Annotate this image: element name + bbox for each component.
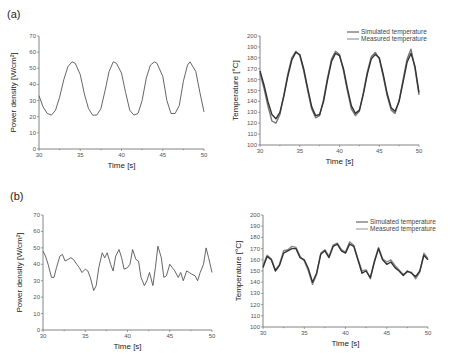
x-tick-label: 50 <box>201 152 208 158</box>
x-tick-label: 45 <box>383 330 390 336</box>
y-tick-label: 140 <box>247 98 258 104</box>
x-tick-label: 50 <box>416 148 423 154</box>
y-tick-label: 160 <box>250 257 261 263</box>
x-axis-label: Time [s] <box>331 339 359 348</box>
x-tick-label: 35 <box>301 330 308 336</box>
y-tick-label: 50 <box>29 65 36 71</box>
x-tick-label: 45 <box>376 148 383 154</box>
series-line-power-density <box>43 246 212 290</box>
y-tick-label: 40 <box>29 81 36 87</box>
y-axis-label: Temperature [°C] <box>234 241 243 302</box>
y-tick-label: 180 <box>250 234 261 240</box>
y-tick-label: 200 <box>250 212 261 218</box>
x-tick-label: 30 <box>36 152 43 158</box>
y-tick-label: 160 <box>247 77 258 83</box>
y-tick-label: 150 <box>250 268 261 274</box>
y-tick-label: 60 <box>33 228 40 234</box>
x-axis-label: Time [s] <box>113 342 141 351</box>
y-tick-label: 70 <box>33 212 40 218</box>
x-axis-label: Time [s] <box>325 157 353 166</box>
legend-entry: Measured temperature <box>370 225 436 233</box>
y-tick-label: 200 <box>247 33 258 39</box>
y-tick-label: 50 <box>33 245 40 251</box>
y-tick-label: 190 <box>250 223 261 229</box>
y-tick-label: 20 <box>33 294 40 300</box>
series-line-measured-temperature <box>263 242 428 285</box>
x-tick-label: 40 <box>342 330 349 336</box>
y-tick-label: 180 <box>247 55 258 61</box>
y-tick-label: 10 <box>33 311 40 317</box>
y-tick-label: 140 <box>250 279 261 285</box>
y-tick-label: 150 <box>247 88 258 94</box>
y-tick-label: 170 <box>250 246 261 252</box>
y-tick-label: 120 <box>247 120 258 126</box>
y-tick-label: 60 <box>29 49 36 55</box>
figure-caption-fragment <box>0 352 450 361</box>
y-tick-label: 30 <box>33 278 40 284</box>
y-tick-label: 120 <box>250 302 261 308</box>
x-tick-label: 35 <box>77 152 84 158</box>
y-axis-label: Temperature [°C] <box>231 60 240 121</box>
series-line-power-density <box>39 62 204 115</box>
x-tick-label: 30 <box>260 330 267 336</box>
y-tick-label: 110 <box>250 313 260 319</box>
x-tick-label: 35 <box>296 148 303 154</box>
y-tick-label: 30 <box>29 98 36 104</box>
x-tick-label: 30 <box>257 148 264 154</box>
x-tick-label: 45 <box>159 152 166 158</box>
figure-canvas: 0102030405060703035404550Time [s]Power d… <box>0 0 450 361</box>
a-power-chart: 0102030405060703035404550Time [s]Power d… <box>9 33 208 170</box>
x-tick-label: 40 <box>124 333 131 339</box>
b-temperature-chart: 1001101201301401501601701801902003035404… <box>234 212 436 348</box>
y-axis-label: Power density [W/cm²] <box>15 232 24 312</box>
y-tick-label: 20 <box>29 114 36 120</box>
x-tick-label: 35 <box>82 333 89 339</box>
series-line-simulated-temperature <box>260 52 419 118</box>
x-tick-label: 40 <box>118 152 125 158</box>
legend-entry: Measured temperature <box>361 35 427 43</box>
y-tick-label: 130 <box>247 109 258 115</box>
a-temperature-chart: 1001101201301401501601701801902003035404… <box>231 28 427 166</box>
x-tick-label: 45 <box>166 333 173 339</box>
x-tick-label: 30 <box>40 333 47 339</box>
y-axis-label: Power density [W/cm²] <box>9 52 18 132</box>
y-tick-label: 40 <box>33 261 40 267</box>
y-tick-label: 190 <box>247 44 258 50</box>
x-tick-label: 40 <box>336 148 343 154</box>
x-tick-label: 50 <box>209 333 216 339</box>
x-tick-label: 50 <box>425 330 432 336</box>
y-tick-label: 130 <box>250 290 261 296</box>
series-line-measured-temperature <box>260 49 419 123</box>
y-tick-label: 110 <box>247 131 257 137</box>
y-tick-label: 70 <box>29 33 36 39</box>
y-tick-label: 170 <box>247 66 258 72</box>
b-power-chart: 0102030405060703035404550Time [s]Power d… <box>15 212 216 351</box>
y-tick-label: 10 <box>29 130 36 136</box>
x-axis-label: Time [s] <box>107 161 135 170</box>
